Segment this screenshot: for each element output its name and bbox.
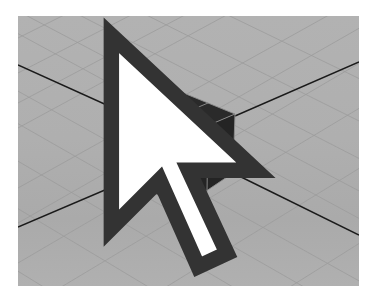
- mouse-cursor-icon: [18, 16, 359, 286]
- 3d-viewport[interactable]: [18, 16, 359, 286]
